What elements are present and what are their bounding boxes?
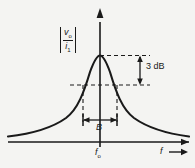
x-label-arrow-head-icon	[181, 149, 188, 155]
db-arrow-head-down-icon	[137, 79, 143, 86]
db-drop-label: 3 dB	[146, 62, 165, 71]
magnitude-bar-left	[60, 27, 61, 53]
denominator-subscript: 1	[67, 46, 70, 52]
figure-canvas	[0, 0, 195, 168]
center-frequency-label: fo	[95, 148, 101, 159]
fraction-denominator: i1	[64, 42, 71, 53]
db-arrow-head-up-icon	[137, 56, 143, 63]
x-axis-arrow-icon	[181, 139, 189, 145]
bandwidth-label: B	[96, 123, 102, 132]
y-axis-label: vo i1	[60, 27, 76, 53]
resonance-response-figure: vo i1 3 dB B fo f	[0, 0, 195, 168]
bandwidth-arrow-head-right-icon	[111, 117, 118, 123]
numerator-subscript: o	[69, 33, 72, 39]
magnitude-bar-right	[75, 27, 76, 53]
transimpedance-fraction: vo i1	[63, 28, 73, 53]
y-axis-arrow-icon	[97, 8, 104, 18]
x-axis-label: f	[160, 147, 163, 156]
bandwidth-arrow-head-left-icon	[83, 117, 90, 123]
center-frequency-subscript: o	[98, 153, 101, 159]
fraction-numerator: vo	[63, 28, 73, 39]
